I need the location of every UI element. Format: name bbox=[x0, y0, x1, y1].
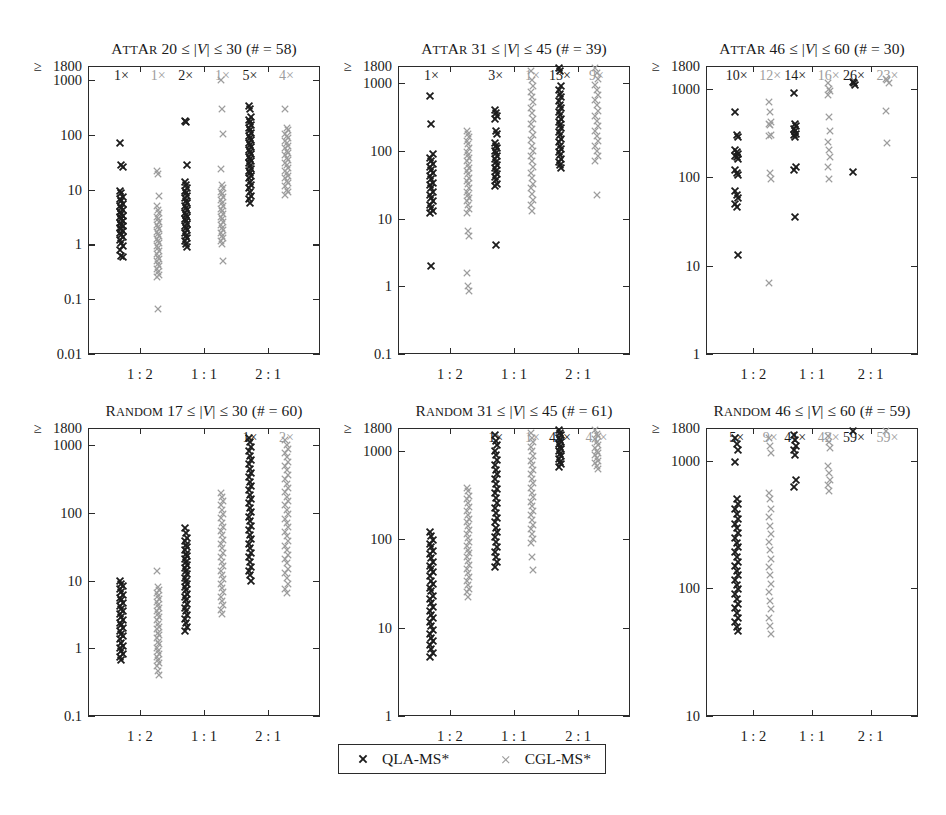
x-tick bbox=[753, 348, 754, 354]
y-tick-label: 10 bbox=[68, 572, 83, 589]
y-tick-label: 1 bbox=[75, 236, 82, 253]
y-tick-label: 0.1 bbox=[64, 291, 82, 308]
panel-title: ATTAR 46 ≤ |V| ≤ 60 (# = 30) bbox=[706, 40, 918, 58]
data-point bbox=[764, 98, 773, 107]
data-point bbox=[182, 242, 192, 252]
x-tick-label: 1 : 1 bbox=[191, 728, 217, 745]
data-point bbox=[825, 127, 834, 136]
x-tick-label: 1 : 1 bbox=[501, 366, 527, 383]
y-tick-label: 1000 bbox=[363, 75, 392, 92]
data-point bbox=[180, 626, 190, 636]
data-point bbox=[426, 92, 436, 102]
x-tick-label: 2 : 1 bbox=[255, 366, 281, 383]
data-point bbox=[766, 120, 775, 129]
x-tick-label: 2 : 1 bbox=[858, 728, 884, 745]
y-tick-label: 1000 bbox=[671, 80, 700, 97]
y-tick-label: 1000 bbox=[53, 71, 82, 88]
figure-root: ATTAR 20 ≤ |V| ≤ 30 (# = 58)1800≥1000100… bbox=[0, 0, 946, 815]
y-tick-right bbox=[911, 428, 918, 429]
data-point bbox=[824, 486, 833, 495]
data-point bbox=[591, 156, 600, 165]
data-point bbox=[463, 209, 472, 218]
data-point bbox=[217, 75, 226, 84]
panel-random-46-60: RANDOM 46 ≤ |V| ≤ 60 (# = 59)1800≥100010… bbox=[620, 402, 946, 760]
timeout-count: 3× bbox=[488, 68, 503, 84]
y-tick bbox=[398, 83, 405, 84]
data-point bbox=[848, 167, 858, 177]
legend-label: QLA-MS* bbox=[382, 750, 449, 768]
x-tick-top bbox=[204, 66, 205, 72]
data-point bbox=[555, 67, 565, 77]
data-point bbox=[154, 170, 163, 179]
y-tick bbox=[88, 354, 95, 355]
data-point bbox=[218, 240, 227, 249]
x-tick-top bbox=[514, 66, 515, 72]
y-tick-label: 1 bbox=[385, 708, 392, 725]
x-tick-top bbox=[812, 66, 813, 72]
y-tick bbox=[706, 66, 713, 67]
data-point bbox=[464, 593, 473, 602]
y-tick-label: 10 bbox=[378, 619, 393, 636]
x-tick bbox=[871, 348, 872, 354]
data-point bbox=[527, 67, 536, 76]
panel-title: ATTAR 31 ≤ |V| ≤ 45 (# = 39) bbox=[398, 40, 630, 58]
data-point bbox=[490, 182, 500, 192]
x-tick-label: 1 : 1 bbox=[191, 366, 217, 383]
panel-random-31-45: RANDOM 31 ≤ |V| ≤ 45 (# = 61)1800≥100010… bbox=[312, 402, 664, 760]
data-point bbox=[732, 202, 742, 212]
y-tick bbox=[706, 588, 713, 589]
panel-random-17-30: RANDOM 17 ≤ |V| ≤ 30 (# = 60)1800≥100010… bbox=[2, 402, 354, 760]
y-tick-right bbox=[911, 461, 918, 462]
y-tick-label: 10 bbox=[686, 257, 701, 274]
x-tick bbox=[450, 348, 451, 354]
data-point bbox=[850, 80, 860, 90]
x-tick bbox=[753, 710, 754, 716]
y-tick bbox=[398, 451, 405, 452]
data-point bbox=[766, 107, 775, 116]
data-point bbox=[882, 427, 891, 436]
x-tick-label: 1 : 1 bbox=[799, 728, 825, 745]
data-point bbox=[181, 117, 191, 127]
y-tick-label: 0.01 bbox=[57, 346, 82, 363]
legend-label: CGL-MS* bbox=[525, 750, 591, 768]
y-tick bbox=[706, 89, 713, 90]
panel-title: RANDOM 17 ≤ |V| ≤ 30 (# = 60) bbox=[88, 402, 320, 420]
data-point bbox=[426, 209, 436, 219]
x-tick-top bbox=[204, 428, 205, 434]
data-point bbox=[790, 132, 800, 142]
panel-title: RANDOM 31 ≤ |V| ≤ 45 (# = 61) bbox=[398, 402, 630, 420]
x-tick bbox=[871, 710, 872, 716]
y-tick-label: 10 bbox=[378, 210, 393, 227]
x-tick-top bbox=[578, 428, 579, 434]
data-point bbox=[154, 305, 163, 314]
x-tick-label: 1 : 2 bbox=[127, 366, 153, 383]
panel-title: ATTAR 20 ≤ |V| ≤ 30 (# = 58) bbox=[88, 40, 320, 58]
data-point bbox=[217, 164, 226, 173]
data-point bbox=[767, 629, 776, 638]
y-tick bbox=[706, 716, 713, 717]
data-point bbox=[764, 279, 773, 288]
y-tick-label: 0.1 bbox=[374, 346, 392, 363]
data-point bbox=[823, 162, 832, 171]
data-point bbox=[492, 129, 502, 139]
y-tick-label: 1800 bbox=[671, 420, 700, 437]
timeout-count: 12× bbox=[759, 68, 781, 84]
x-tick-label: 1 : 2 bbox=[740, 366, 766, 383]
timeout-count: 4× bbox=[279, 68, 294, 84]
data-point bbox=[767, 448, 776, 457]
data-point bbox=[789, 482, 799, 492]
data-point bbox=[790, 451, 800, 461]
data-point bbox=[246, 576, 256, 586]
y-tick-right bbox=[911, 354, 918, 355]
y-tick bbox=[398, 428, 405, 429]
panel-attar-31-45: ATTAR 31 ≤ |V| ≤ 45 (# = 39)1800≥1000100… bbox=[312, 40, 664, 398]
data-point bbox=[764, 132, 773, 141]
x-tick-top bbox=[753, 66, 754, 72]
x-tick bbox=[204, 710, 205, 716]
data-point bbox=[118, 162, 128, 172]
x-tick-top bbox=[268, 428, 269, 434]
timeout-count: 1× bbox=[151, 68, 166, 84]
x-tick bbox=[514, 348, 515, 354]
data-point bbox=[733, 251, 743, 261]
x-tick-top bbox=[514, 428, 515, 434]
